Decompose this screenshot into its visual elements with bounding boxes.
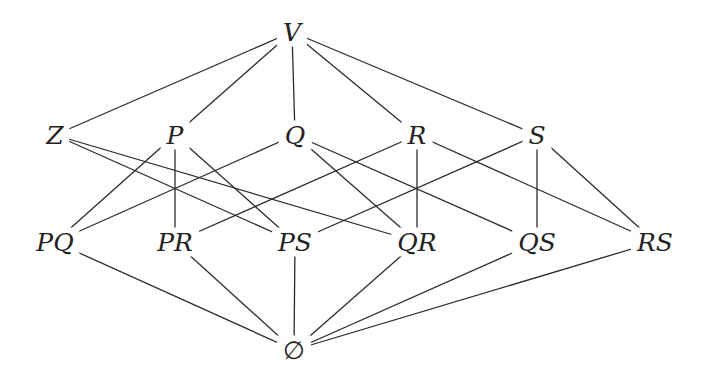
node-ps: PS xyxy=(272,228,318,257)
edge-pq-empty xyxy=(55,242,294,350)
node-pr: PR xyxy=(151,228,199,257)
node-s: S xyxy=(522,121,551,150)
edge-z-qr xyxy=(55,135,417,242)
edge-pr-empty xyxy=(175,242,294,350)
node-r: R xyxy=(402,121,433,150)
edge-r-rs xyxy=(417,135,655,242)
node-rs: RS xyxy=(631,228,679,257)
node-q: Q xyxy=(279,121,312,150)
edge-rs-empty xyxy=(294,242,655,350)
edge-q-qr xyxy=(295,135,417,242)
node-qr: QR xyxy=(391,228,442,257)
edge-ps-empty xyxy=(294,242,295,350)
node-pq: PQ xyxy=(30,228,79,257)
edge-p-pq xyxy=(55,135,175,242)
edges-layer xyxy=(0,0,711,379)
edge-v-p xyxy=(175,32,292,135)
node-v: V xyxy=(277,18,307,47)
node-empty-set: ∅ xyxy=(277,336,311,365)
edge-qs-empty xyxy=(294,242,537,350)
node-z: Z xyxy=(40,121,69,150)
edge-qr-empty xyxy=(294,242,417,350)
edge-r-pr xyxy=(175,135,417,242)
edge-p-ps xyxy=(175,135,295,242)
hasse-diagram: VZPQRSPQPRPSQRQSRS∅ xyxy=(0,0,711,379)
node-qs: QS xyxy=(512,228,562,257)
edge-s-rs xyxy=(537,135,655,242)
node-p: P xyxy=(161,121,190,150)
